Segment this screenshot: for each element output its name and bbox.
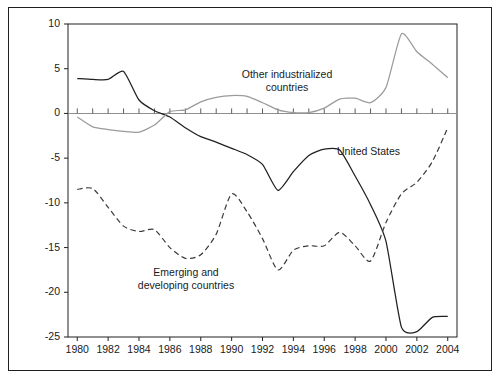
united-states-label-line-1: United States bbox=[337, 145, 400, 158]
line-chart bbox=[0, 0, 500, 379]
emerging-developing-label-line-2: developing countries bbox=[86, 279, 286, 292]
figure-root: 1050-5-10-15-20-251980198219841986198819… bbox=[0, 0, 500, 379]
y-axis-tick-label: -10 bbox=[8, 196, 60, 208]
y-axis-tick-label: 10 bbox=[8, 17, 60, 29]
other-industrialized-label-line-2: countries bbox=[187, 81, 387, 94]
y-axis-tick-label: -25 bbox=[8, 330, 60, 342]
other-industrialized-label-line-1: Other industrialized bbox=[187, 68, 387, 81]
y-axis-tick-label: -15 bbox=[8, 241, 60, 253]
y-axis-tick-label: 5 bbox=[8, 62, 60, 74]
emerging-developing-label-line-1: Emerging and bbox=[86, 266, 286, 279]
y-axis-tick-label: 0 bbox=[8, 106, 60, 118]
y-axis-tick-label: -5 bbox=[8, 151, 60, 163]
emerging-developing-label: Emerging anddeveloping countries bbox=[86, 266, 286, 291]
other-industrialized-label: Other industrializedcountries bbox=[187, 68, 387, 93]
united-states-label: United States bbox=[337, 145, 400, 158]
x-axis-tick-label: 2004 bbox=[424, 343, 472, 355]
y-axis-tick-label: -20 bbox=[8, 285, 60, 297]
